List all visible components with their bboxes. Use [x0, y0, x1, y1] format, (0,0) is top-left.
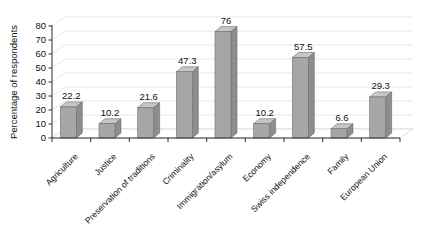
- y-tick-label-80: 80: [35, 20, 46, 31]
- bar-front-face: [60, 107, 76, 138]
- bar-european-union[interactable]: [370, 92, 392, 138]
- bar-front-face: [99, 124, 115, 138]
- x-category-label-3: Criminality: [160, 151, 196, 187]
- bar-justice[interactable]: [99, 119, 121, 138]
- y-axis-title: Percentage of respondents: [8, 25, 19, 139]
- bar-front-face: [254, 124, 270, 138]
- bar-front-face: [215, 32, 231, 138]
- bar-side-face: [192, 67, 198, 138]
- gridline-80: [52, 17, 413, 26]
- bar-side-face: [308, 53, 314, 139]
- bar-value-label-5: 10.2: [255, 107, 274, 118]
- bar-side-face: [386, 92, 392, 138]
- y-tick-label-70: 70: [35, 34, 46, 45]
- y-tick-label-20: 20: [35, 104, 46, 115]
- bar-front-face: [331, 129, 347, 138]
- bar-value-label-4: 76: [221, 15, 232, 26]
- x-category-label-0: Agriculture: [44, 151, 80, 187]
- bar-immigration-asylum[interactable]: [215, 27, 237, 138]
- bar-value-label-1: 10.2: [101, 107, 120, 118]
- bar-chart: 22.210.221.647.37610.257.56.629.30102030…: [0, 0, 430, 250]
- y-tick-label-40: 40: [35, 76, 46, 87]
- bar-swiss-independence[interactable]: [292, 53, 314, 139]
- x-category-label-5: Economy: [241, 151, 274, 184]
- bar-value-label-2: 21.6: [139, 91, 158, 102]
- bar-value-label-8: 29.3: [371, 80, 390, 91]
- bar-value-label-3: 47.3: [178, 55, 197, 66]
- bar-side-face: [231, 27, 237, 138]
- y-tick-label-30: 30: [35, 90, 46, 101]
- x-category-label-1: Justice: [92, 151, 118, 177]
- x-category-label-7: Family: [325, 151, 350, 176]
- bar-side-face: [76, 102, 82, 138]
- bar-front-face: [138, 108, 154, 138]
- bar-criminality[interactable]: [176, 67, 198, 138]
- bar-side-face: [154, 103, 160, 138]
- y-tick-label-0: 0: [41, 132, 46, 143]
- chart-container: 22.210.221.647.37610.257.56.629.30102030…: [0, 0, 430, 250]
- bar-economy[interactable]: [254, 119, 276, 138]
- y-tick-label-10: 10: [35, 118, 46, 129]
- x-category-label-2: Preservation of traditions: [83, 151, 157, 225]
- bar-value-label-7: 6.6: [335, 112, 348, 123]
- bar-value-label-0: 22.2: [62, 90, 81, 101]
- y-tick-label-50: 50: [35, 62, 46, 73]
- bar-front-face: [370, 97, 386, 138]
- bar-value-label-6: 57.5: [294, 41, 313, 52]
- bar-family[interactable]: [331, 124, 353, 138]
- bar-front-face: [292, 58, 308, 139]
- y-tick-label-60: 60: [35, 48, 46, 59]
- bar-preservation-of-traditions[interactable]: [138, 103, 160, 138]
- bar-agriculture[interactable]: [60, 102, 82, 138]
- bar-front-face: [176, 72, 192, 138]
